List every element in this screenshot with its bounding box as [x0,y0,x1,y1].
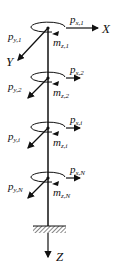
label-px-N: px,N [70,164,85,177]
label-px-2: px,2 [70,64,84,77]
fixed-support-hatch [33,226,66,233]
y-axis-label: Y [6,55,13,68]
label-py-2: py,2 [8,81,21,94]
x-axis-label: X [102,22,110,35]
label-mz-N: mz,N [53,187,70,200]
label-px-1: px,1 [70,14,84,27]
label-mz-i: mz,i [53,137,67,150]
label-px-i: px,i [70,114,82,127]
label-mz-1: mz,1 [53,37,69,50]
z-axis-label: Z [56,250,63,263]
label-py-N: py,N [8,181,23,194]
label-mz-2: mz,2 [53,87,69,100]
label-py-1: py,1 [8,31,21,44]
label-py-i: py,i [8,131,20,144]
y-axis-arrow [18,28,48,60]
structural-diagram: X Y Z px,1py,1mz,1px,2py,2mz,2px,ipy,imz… [0,0,117,274]
